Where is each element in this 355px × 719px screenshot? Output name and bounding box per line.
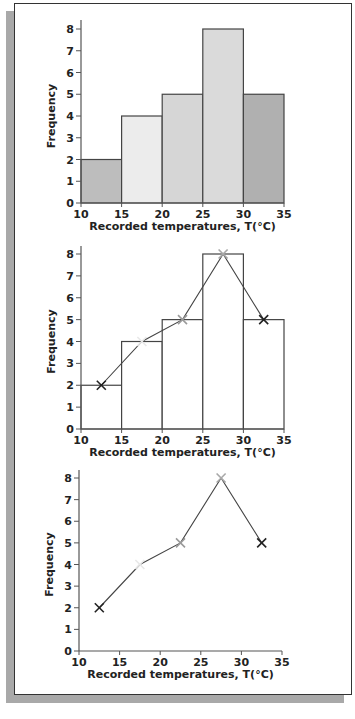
histogram-bar <box>81 160 122 204</box>
y-tick-label: 1 <box>66 401 74 414</box>
y-axis-title: Frequency <box>45 309 58 373</box>
charts-figure: 012345678101520253035Recorded temperatur… <box>0 0 355 719</box>
y-tick-label: 2 <box>64 602 72 615</box>
y-tick-label: 5 <box>64 537 72 550</box>
y-tick-label: 4 <box>66 110 74 123</box>
x-marker-icon <box>135 560 144 569</box>
histogram-with-polygon-chart: 012345678101520253035Recorded temperatur… <box>45 246 292 459</box>
histogram-bar <box>162 320 203 429</box>
y-axis-title: Frequency <box>43 532 56 596</box>
x-axis-title: Recorded temperatures, T(°C) <box>89 220 276 233</box>
histogram-bar <box>243 320 284 429</box>
y-tick-label: 3 <box>66 132 74 145</box>
y-tick-label: 3 <box>64 580 72 593</box>
y-tick-label: 8 <box>66 248 74 261</box>
y-tick-label: 7 <box>66 270 74 283</box>
y-tick-label: 6 <box>66 67 74 80</box>
y-tick-label: 7 <box>66 45 74 58</box>
x-tick-label: 10 <box>73 434 89 447</box>
y-tick-label: 2 <box>66 379 74 392</box>
histogram-chart: 012345678101520253035Recorded temperatur… <box>45 20 292 233</box>
x-tick-label: 35 <box>276 434 291 447</box>
y-tick-label: 8 <box>66 23 74 36</box>
histogram-bar <box>203 254 244 429</box>
y-tick-label: 6 <box>66 292 74 305</box>
frequency-polygon-chart: 012345678101520253035Recorded temperatur… <box>43 470 290 681</box>
histogram-bar <box>162 94 203 203</box>
histogram-bar <box>122 116 163 203</box>
y-tick-label: 1 <box>64 623 72 636</box>
x-marker-icon <box>257 538 266 547</box>
y-tick-label: 7 <box>64 494 72 507</box>
y-axis-title: Frequency <box>45 84 58 148</box>
x-axis-title: Recorded temperatures, T(°C) <box>87 668 274 681</box>
y-tick-label: 4 <box>64 559 72 572</box>
y-tick-label: 6 <box>64 515 72 528</box>
x-tick-label: 10 <box>71 656 87 669</box>
x-axis-title: Recorded temperatures, T(°C) <box>89 446 276 459</box>
y-tick-label: 2 <box>66 154 74 167</box>
histogram-bar <box>122 342 163 430</box>
y-tick-label: 4 <box>66 336 74 349</box>
y-tick-label: 5 <box>66 314 74 327</box>
x-marker-icon <box>217 474 226 483</box>
histogram-bar <box>203 29 244 203</box>
y-tick-label: 5 <box>66 88 74 101</box>
x-tick-label: 35 <box>274 656 289 669</box>
histogram-bar <box>81 385 122 429</box>
y-tick-label: 8 <box>64 472 72 485</box>
y-tick-label: 3 <box>66 357 74 370</box>
y-tick-label: 1 <box>66 175 74 188</box>
x-marker-icon <box>95 603 104 612</box>
x-marker-icon <box>176 538 185 547</box>
x-tick-label: 35 <box>276 208 291 221</box>
histogram-bar <box>243 94 284 203</box>
x-tick-label: 10 <box>73 208 89 221</box>
